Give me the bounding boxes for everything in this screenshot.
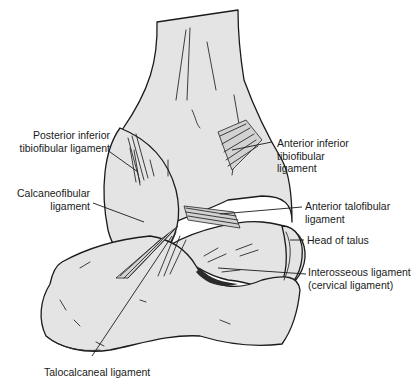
label-line: ligament — [305, 213, 390, 226]
ankle-ligament-diagram: Posterior inferior tibiofibular ligament… — [0, 0, 420, 385]
label-line: Anterior inferior — [277, 137, 349, 150]
label-line: Anterior talofibular — [305, 200, 390, 213]
label-anterior-inferior-tibiofibular-ligament: Anterior inferior tibiofibular ligament — [277, 137, 349, 175]
leader-anterior-talofibular — [220, 207, 302, 214]
label-interosseous-ligament: Interosseous ligament (cervical ligament… — [308, 266, 411, 291]
label-line: tibiofibular ligament — [10, 142, 110, 155]
label-anterior-talofibular-ligament: Anterior talofibular ligament — [305, 200, 390, 225]
label-line: Calcaneofibular — [10, 187, 90, 200]
label-calcaneofibular-ligament: Calcaneofibular ligament — [10, 187, 90, 212]
label-line: Talocalcaneal ligament — [44, 366, 150, 379]
label-line: ligament — [277, 162, 349, 175]
label-posterior-inferior-tibiofibular-ligament: Posterior inferior tibiofibular ligament — [10, 129, 110, 154]
label-line: ligament — [10, 200, 90, 213]
label-line: Interosseous ligament — [308, 266, 411, 279]
label-head-of-talus: Head of talus — [307, 234, 369, 247]
label-talocalcaneal-ligament: Talocalcaneal ligament — [44, 366, 150, 379]
label-line: Head of talus — [307, 234, 369, 247]
label-line: (cervical ligament) — [308, 279, 411, 292]
label-line: Posterior inferior — [10, 129, 110, 142]
label-line: tibiofibular — [277, 150, 349, 163]
